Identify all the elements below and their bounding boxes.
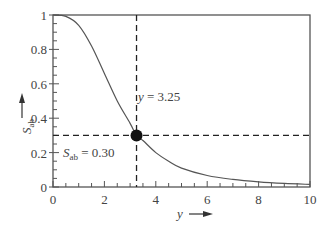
y-tick-label: 1 — [41, 8, 48, 23]
x-tick-label: 4 — [153, 192, 160, 207]
y-axis-label-text: Sab — [19, 119, 36, 134]
tick-labels: 024681000.20.40.60.81 — [31, 8, 317, 207]
plot-frame — [53, 15, 310, 187]
x-tick-label: 10 — [304, 192, 317, 207]
x-tick-label: 8 — [255, 192, 262, 207]
intersection-marker — [131, 129, 143, 141]
y-tick-label: 0.8 — [31, 42, 47, 57]
y-tick-label: 0 — [41, 180, 48, 195]
y-tick-label: 0.2 — [31, 146, 47, 161]
arrow-up-icon — [19, 93, 25, 103]
x-tick-label: 0 — [50, 192, 57, 207]
vline-annotation: y = 3.25 — [136, 89, 180, 104]
x-axis-label: y — [175, 206, 213, 221]
x-tick-label: 2 — [101, 192, 108, 207]
hline-annotation: Sab = 0.30 — [63, 145, 115, 162]
arrow-right-icon — [203, 211, 213, 217]
y-tick-label: 0.6 — [31, 77, 48, 92]
chart: 024681000.20.40.60.81 y = 3.25 Sab = 0.3… — [0, 0, 328, 232]
x-axis-label-text: y — [175, 206, 183, 221]
x-tick-label: 6 — [204, 192, 211, 207]
